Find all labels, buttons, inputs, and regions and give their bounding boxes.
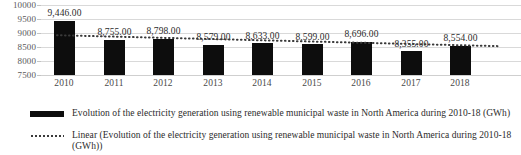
chart-legend: Evolution of the electricity generation … [0,100,521,155]
y-axis-label-8000: 8000 [0,57,36,66]
bar-2011[interactable] [104,40,125,75]
tick-mark-9000 [37,33,41,34]
bar-2014[interactable] [252,43,273,75]
bar-2018[interactable] [450,46,471,76]
y-axis-label-9000: 9000 [0,29,36,38]
bar-2012[interactable] [153,39,174,75]
tick-mark-10000 [37,5,41,6]
bar-value-2012: 8,798.00 [141,26,186,36]
legend-item-trendline[interactable]: Linear (Evolution of the electricity gen… [30,130,512,152]
x-axis-label-2013: 2013 [191,78,235,88]
x-axis-label-2018: 2018 [438,78,482,88]
bar-2017[interactable] [401,51,422,75]
x-axis-label-2012: 2012 [141,78,185,88]
x-axis-label-2010: 2010 [42,78,86,88]
plot-area: 10000 9500 9000 8500 8000 7500 9,446.00 … [0,0,521,95]
dotted-line-swatch-icon [30,133,64,139]
legend-item-bars[interactable]: Evolution of the electricity generation … [30,108,510,119]
x-axis-label-2017: 2017 [389,78,433,88]
legend-label-trendline: Linear (Evolution of the electricity gen… [72,130,512,152]
bar-value-2018: 8,554.00 [438,33,483,43]
x-axis-label-2011: 2011 [92,78,136,88]
bar-value-2013: 8,579.00 [191,32,236,42]
bar-value-2014: 8,633.00 [240,31,285,41]
bar-value-2015: 8,599.00 [290,32,335,42]
tick-mark-8500 [37,47,41,48]
bar-2016[interactable] [351,42,372,76]
tick-mark-9500 [37,19,41,20]
y-axis-label-7500: 7500 [0,71,36,80]
tick-mark-7500 [37,75,41,76]
bar-2013[interactable] [203,45,224,75]
bar-value-2017: 8,355.00 [389,39,434,49]
bar-2010[interactable] [54,21,75,76]
x-axis-label-2015: 2015 [290,78,334,88]
y-axis-label-10000: 10000 [0,1,36,10]
bar-swatch-icon [30,111,64,117]
bar-value-2016: 8,696.00 [339,29,384,39]
tick-mark-8000 [37,61,41,62]
legend-label-bars: Evolution of the electricity generation … [72,108,510,119]
y-axis-label-9500: 9500 [0,15,36,24]
bar-value-2010: 9,446.00 [42,8,87,18]
bar-2015[interactable] [302,44,323,75]
x-axis-label-2016: 2016 [339,78,383,88]
x-axis-label-2014: 2014 [240,78,284,88]
bar-value-2011: 8,755.00 [92,27,137,37]
chart-container: 10000 9500 9000 8500 8000 7500 9,446.00 … [0,0,521,155]
axis-baseline-7500 [40,75,521,76]
gridline-10000 [40,5,521,6]
gridline-9500 [40,19,521,20]
y-axis-label-8500: 8500 [0,43,36,52]
